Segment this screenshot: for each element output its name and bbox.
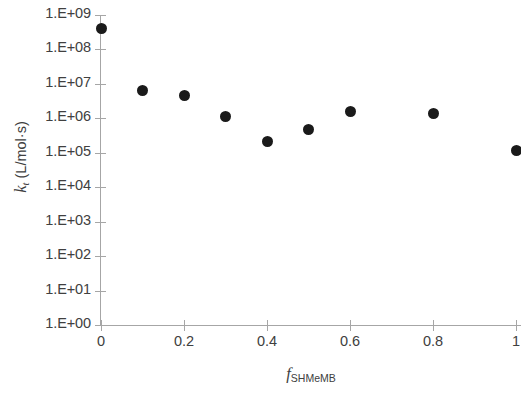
data-point [137,85,148,96]
y-axis-tick [95,222,106,223]
x-axis-tick-label: 0.8 [423,333,443,349]
x-axis-tick [267,320,268,331]
y-axis-tick [95,49,106,50]
y-axis-title-subscript: t [20,183,31,186]
y-axis-tick-label: 1.E+02 [17,246,91,262]
y-axis-title-variable: k [11,185,30,192]
y-axis-tick [95,291,106,292]
y-axis-tick-label: 1.E+07 [17,74,91,90]
y-axis-tick [95,153,106,154]
y-axis-tick [95,84,106,85]
data-point [96,23,107,34]
x-axis-tick [101,320,102,331]
y-axis-tick-label: 1.E+01 [17,281,91,297]
data-point [511,145,521,156]
data-point [345,106,356,117]
x-axis-tick [350,320,351,331]
y-axis-tick [95,15,106,16]
chart-container: 1.E+001.E+011.E+021.E+031.E+041.E+051.E+… [0,0,521,393]
data-point [179,90,190,101]
data-point [262,136,273,147]
x-axis-tick-label: 0.2 [174,333,194,349]
y-axis-title-units: (L/mol·s) [13,121,29,182]
data-point [220,111,231,122]
x-axis-tick-label: 0 [97,333,105,349]
x-axis-line [101,325,521,326]
x-axis-title-subscript: SHMeMB [291,372,336,384]
x-axis-tick-label: 1 [512,333,520,349]
data-point [428,108,439,119]
y-axis-tick-label: 1.E+00 [17,315,91,331]
y-axis-tick [95,118,106,119]
x-axis-tick [433,320,434,331]
y-axis-title: kt (L/mol·s) [11,92,31,222]
y-axis-line [100,15,101,326]
y-axis-tick [95,187,106,188]
data-point [303,124,314,135]
x-axis-tick-label: 0.6 [340,333,360,349]
y-axis-tick [95,256,106,257]
x-axis-tick [516,320,517,331]
x-axis-tick-label: 0.4 [257,333,277,349]
y-axis-tick-label: 1.E+08 [17,39,91,55]
x-axis-title: fSHMeMB [101,364,521,384]
y-axis-tick-label: 1.E+09 [17,5,91,21]
x-axis-tick [184,320,185,331]
